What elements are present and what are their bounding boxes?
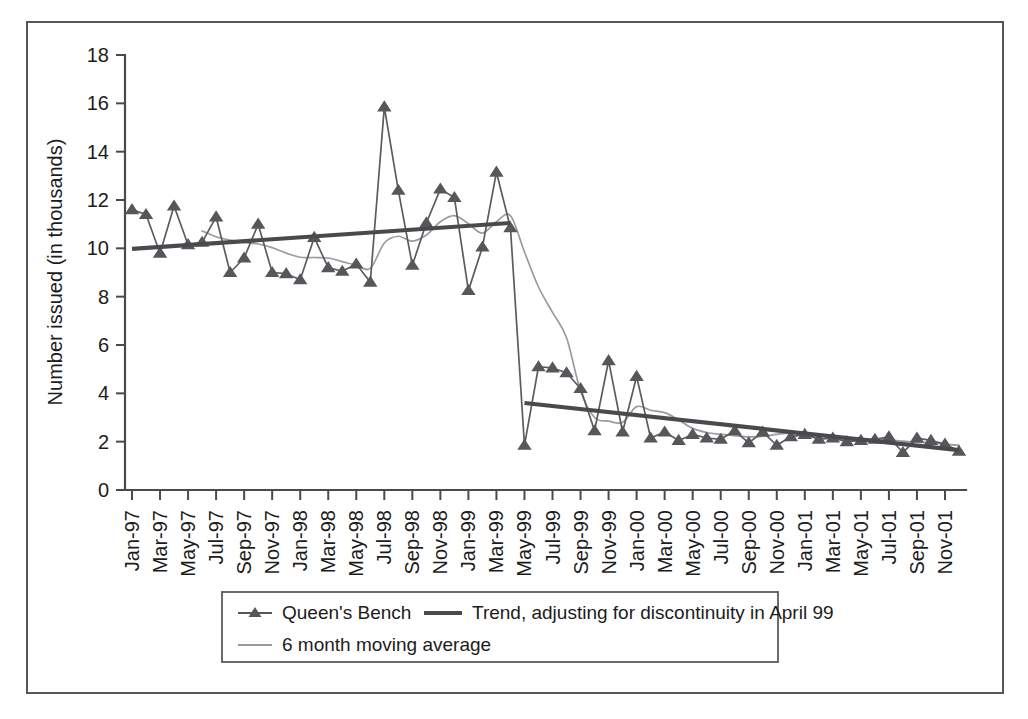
y-axis-ticks [116, 55, 125, 490]
y-tick-label: 14 [87, 141, 109, 163]
data-point-marker [629, 370, 643, 381]
data-point-marker [125, 203, 139, 214]
x-tick-label: May-99 [513, 510, 535, 577]
legend-label-trend: Trend, adjusting for discontinuity in Ap… [472, 602, 834, 623]
x-tick-label: May-01 [850, 510, 872, 577]
y-tick-label: 16 [87, 92, 109, 114]
data-point-marker [419, 216, 433, 227]
x-tick-label: Sep-99 [570, 510, 592, 575]
x-tick-label: Jul-97 [205, 510, 227, 564]
data-point-marker [265, 266, 279, 277]
data-point-marker [447, 191, 461, 202]
y-tick-label: 18 [87, 44, 109, 66]
data-point-marker [517, 439, 531, 450]
data-point-marker [671, 434, 685, 445]
x-axis-ticks [132, 490, 945, 500]
data-point-marker [531, 360, 545, 371]
x-tick-label: Nov-99 [598, 510, 620, 574]
x-tick-label: Nov-98 [429, 510, 451, 574]
data-point-marker [167, 199, 181, 210]
x-tick-label: May-00 [682, 510, 704, 577]
y-tick-label: 8 [98, 286, 109, 308]
data-point-marker [321, 261, 335, 272]
x-tick-label: Nov-00 [766, 510, 788, 574]
x-tick-label: Jul-98 [373, 510, 395, 564]
x-tick-label: Mar-00 [654, 510, 676, 573]
x-tick-label: Mar-97 [149, 510, 171, 573]
y-axis-tick-labels: 024681012141618 [87, 44, 109, 501]
legend-label-queens-bench: Queen's Bench [282, 602, 411, 623]
data-point-marker [475, 241, 489, 252]
x-tick-label: Sep-98 [401, 510, 423, 575]
x-tick-label: Jan-98 [289, 510, 311, 571]
data-point-marker [349, 257, 363, 268]
x-tick-label: Jul-00 [710, 510, 732, 564]
y-tick-label: 6 [98, 334, 109, 356]
x-tick-label: Mar-99 [485, 510, 507, 573]
legend-item-trend[interactable]: Trend, adjusting for discontinuity in Ap… [424, 602, 834, 623]
data-point-marker [251, 218, 265, 229]
chart-legend: Queen's Bench Trend, adjusting for disco… [222, 592, 834, 662]
y-tick-label: 4 [98, 382, 109, 404]
chart-root: 024681012141618 Jan-97Mar-97May-97Jul-97… [0, 0, 1028, 719]
y-tick-label: 2 [98, 431, 109, 453]
x-tick-label: Sep-00 [738, 510, 760, 575]
data-point-marker [293, 273, 307, 284]
data-point-marker [209, 210, 223, 221]
data-point-marker [377, 100, 391, 111]
x-tick-label: Jan-99 [457, 510, 479, 571]
x-axis-tick-labels: Jan-97Mar-97May-97Jul-97Sep-97Nov-97Jan-… [121, 510, 956, 577]
data-point-marker [391, 184, 405, 195]
data-point-marker [587, 424, 601, 435]
data-point-marker [657, 425, 671, 436]
data-point-marker [237, 251, 251, 262]
data-point-marker [433, 183, 447, 194]
x-tick-label: Sep-01 [906, 510, 928, 575]
x-tick-label: Sep-97 [233, 510, 255, 575]
data-point-marker [615, 425, 629, 436]
data-point-marker [882, 430, 896, 441]
legend-label-moving-average: 6 month moving average [282, 634, 491, 655]
y-tick-label: 0 [98, 479, 109, 501]
x-tick-label: May-98 [345, 510, 367, 577]
y-axis-title: Number issued (in thousands) [44, 139, 66, 406]
trend-line-pre-break [132, 223, 510, 249]
data-point-marker [461, 284, 475, 295]
data-point-marker [363, 276, 377, 287]
queens-bench-chart: 024681012141618 Jan-97Mar-97May-97Jul-97… [0, 0, 1028, 719]
x-tick-label: Jan-01 [794, 510, 816, 571]
x-tick-label: Nov-97 [261, 510, 283, 574]
x-tick-label: Jul-99 [542, 510, 564, 564]
x-tick-label: Jan-00 [626, 510, 648, 571]
x-tick-label: Nov-01 [934, 510, 956, 574]
trend-line-post-break [524, 403, 959, 450]
y-tick-label: 10 [87, 237, 109, 259]
data-point-marker [489, 166, 503, 177]
data-point-marker [601, 354, 615, 365]
x-tick-label: Jul-01 [878, 510, 900, 564]
data-point-marker [643, 431, 657, 442]
x-tick-label: Jan-97 [121, 510, 143, 571]
x-tick-label: May-97 [177, 510, 199, 577]
x-tick-label: Mar-01 [822, 510, 844, 573]
data-point-marker [910, 431, 924, 442]
data-point-marker [405, 259, 419, 270]
queens-bench-line [132, 107, 959, 453]
x-tick-label: Mar-98 [317, 510, 339, 573]
y-tick-label: 12 [87, 189, 109, 211]
